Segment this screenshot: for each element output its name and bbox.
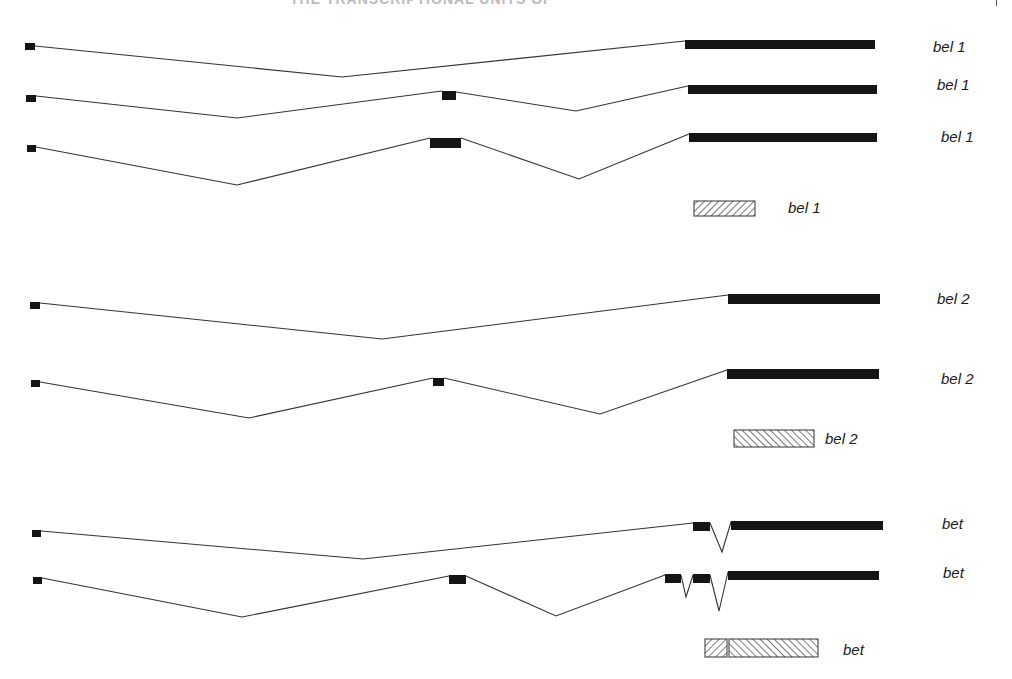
protein-label: bet <box>843 641 864 658</box>
intron-line <box>466 575 665 616</box>
exon-block <box>25 43 35 50</box>
intron-line <box>36 138 430 185</box>
intron-line <box>40 378 433 418</box>
exon-block <box>31 380 40 387</box>
exon-block <box>26 95 36 102</box>
exon-block <box>728 294 880 304</box>
transcript-groups <box>25 40 883 657</box>
transcript <box>27 133 877 185</box>
transcript-label: bet <box>943 564 964 581</box>
hatched-box <box>734 430 814 447</box>
protein-coding-region <box>734 430 814 447</box>
exon-block <box>728 571 879 580</box>
transcript <box>32 521 883 559</box>
exon-block <box>33 577 42 584</box>
exon-block <box>731 521 883 530</box>
gene-group-bel-1 <box>25 40 877 216</box>
exon-block <box>449 575 466 584</box>
transcript-label: bel 2 <box>937 290 970 307</box>
transcript <box>30 294 880 339</box>
protein-coding-region <box>694 201 755 216</box>
transcript-label: bel 1 <box>933 38 966 55</box>
exon-block <box>27 145 36 152</box>
exon-block <box>727 369 879 379</box>
exon-block <box>433 378 444 386</box>
intron-line <box>444 370 727 414</box>
exon-block <box>693 574 710 583</box>
intron-line <box>35 41 685 77</box>
transcript-label: bel 1 <box>937 76 970 93</box>
intron-line <box>710 572 728 611</box>
exon-block <box>32 530 41 537</box>
gene-group-bet <box>32 521 883 657</box>
exon-block <box>689 133 877 142</box>
transcript-label: bel 2 <box>941 370 974 387</box>
exon-block <box>442 91 456 100</box>
gene-structure-figure: THE TRANSCRIPTIONAL UNITS OF bel 1bel 1b… <box>0 0 1012 679</box>
protein-coding-region <box>705 639 818 657</box>
exon-block <box>685 40 875 49</box>
protein-label: bel 2 <box>825 430 858 447</box>
transcript <box>31 369 879 418</box>
intron-line <box>461 134 689 179</box>
transcript-label: bel 1 <box>941 128 974 145</box>
intron-line <box>456 86 688 111</box>
transcript-diagram <box>0 0 1012 679</box>
transcript <box>33 571 879 617</box>
hatched-box <box>729 639 818 657</box>
exon-block <box>688 85 877 94</box>
intron-line <box>40 295 728 339</box>
protein-label: bel 1 <box>788 199 821 216</box>
transcript-label: bet <box>942 515 963 532</box>
transcript <box>25 40 875 77</box>
intron-line <box>42 576 449 617</box>
exon-block <box>693 522 710 531</box>
gene-group-bel-2 <box>30 294 880 447</box>
exon-block <box>665 574 681 583</box>
transcript <box>26 85 877 118</box>
exon-block <box>30 302 40 309</box>
intron-line <box>681 575 693 597</box>
hatched-box <box>705 639 727 657</box>
intron-line <box>41 523 693 559</box>
intron-line <box>710 522 731 552</box>
intron-line <box>36 91 442 118</box>
hatched-box <box>694 201 755 216</box>
exon-block <box>430 138 461 148</box>
